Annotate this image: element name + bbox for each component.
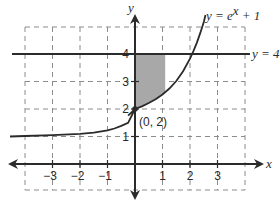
x-axis-label: x [265,156,272,171]
svg-text:4: 4 [122,47,129,61]
curve-label: y = ex + 1 [204,3,260,23]
svg-text:1: 1 [122,130,129,144]
svg-text:−3: −3 [43,169,57,183]
x-tick-labels: −3 −2 −1 1 2 3 [43,169,221,183]
graph: y x y = ex + 1 y = 4 (0, 2) −3 −2 −1 1 2… [0,0,280,203]
svg-text:3: 3 [214,169,221,183]
y-tick-labels: 1 2 3 4 [122,47,129,144]
svg-text:−1: −1 [98,169,112,183]
svg-text:2: 2 [122,102,129,116]
svg-text:2: 2 [187,169,194,183]
svg-text:−2: −2 [71,169,85,183]
line-label: y = 4 [250,46,280,61]
svg-text:1: 1 [159,169,166,183]
shaded-region [135,54,165,109]
point-label: (0, 2) [139,115,167,129]
svg-text:3: 3 [122,75,129,89]
point-0-2 [132,106,138,112]
y-axis-label: y [126,0,134,15]
